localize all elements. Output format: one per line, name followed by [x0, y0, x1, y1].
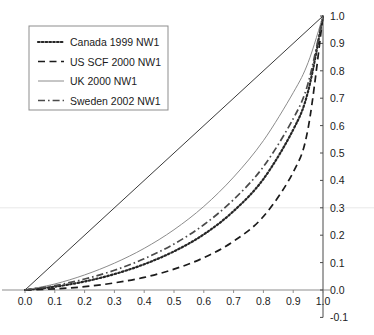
legend: Canada 1999 NW1US SCF 2000 NW1UK 2000 NW… — [29, 26, 168, 110]
y-tick-label: 0.3 — [330, 202, 345, 214]
y-tick-label: 0.0 — [330, 284, 345, 296]
x-tick-label: 1.0 — [316, 295, 331, 307]
lorenz-curve-chart: 0.00.10.20.30.40.50.60.70.80.91.0 1.00.9… — [0, 0, 374, 335]
y-tick-label: 0.7 — [330, 92, 345, 104]
x-axis-tick-labels: 0.00.10.20.30.40.50.60.70.80.91.0 — [18, 295, 331, 307]
y-tick-label: -0.1 — [330, 311, 348, 323]
legend-label: US SCF 2000 NW1 — [70, 56, 161, 68]
x-tick-label: 0.0 — [18, 295, 33, 307]
y-tick-label: 0.4 — [330, 174, 345, 186]
x-tick-label: 0.4 — [137, 295, 152, 307]
y-tick-label: 0.2 — [330, 229, 345, 241]
legend-label: UK 2000 NW1 — [70, 75, 137, 87]
x-tick-label: 0.1 — [47, 295, 62, 307]
y-tick-label: 0.5 — [330, 147, 345, 159]
y-tick-label: 0.6 — [330, 120, 345, 132]
x-tick-label: 0.9 — [286, 295, 301, 307]
y-tick-label: 0.8 — [330, 65, 345, 77]
y-axis-tick-labels: 1.00.90.80.70.60.50.40.30.20.10.0-0.1 — [330, 10, 348, 323]
chart-canvas: 0.00.10.20.30.40.50.60.70.80.91.0 1.00.9… — [0, 0, 374, 335]
x-tick-label: 0.2 — [77, 295, 92, 307]
y-tick-label: 0.1 — [330, 257, 345, 269]
x-tick-label: 0.6 — [196, 295, 211, 307]
x-tick-label: 0.5 — [167, 295, 182, 307]
legend-label: Sweden 2002 NW1 — [70, 95, 161, 107]
x-tick-label: 0.8 — [256, 295, 271, 307]
y-tick-label: 1.0 — [330, 10, 345, 22]
x-tick-label: 0.7 — [226, 295, 241, 307]
y-tick-label: 0.9 — [330, 37, 345, 49]
x-tick-label: 0.3 — [107, 295, 122, 307]
legend-label: Canada 1999 NW1 — [70, 36, 159, 48]
